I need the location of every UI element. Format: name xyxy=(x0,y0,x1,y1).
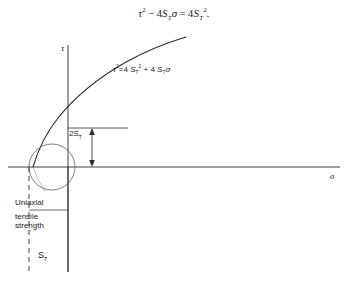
failure-envelope-lower-branch xyxy=(33,167,45,191)
tensile-strength-label: tensile strength xyxy=(15,212,44,230)
curve-eq-plus: + xyxy=(144,65,149,74)
strength-subscript: T xyxy=(44,256,47,262)
curve-eq-coefficient-b: 4 xyxy=(150,65,154,74)
tau-axis-label: τ xyxy=(61,43,64,53)
curve-eq-strength-exponent: 2 xyxy=(139,64,142,69)
failure-envelope-curve xyxy=(33,37,186,167)
dimension-value: 2S xyxy=(69,129,79,138)
dimension-label: 2ST xyxy=(69,129,82,140)
dimension-arrow-head-bottom xyxy=(89,160,95,167)
strength-line: strength xyxy=(15,221,44,230)
curve-eq-strength-subscript: T xyxy=(135,70,138,75)
uniaxial-label: Uniaxial xyxy=(15,198,43,207)
figure-container: τ2−4STσ=4ST2. τ σ τ2=4 ST2 + 4 STσ 2ST xyxy=(0,0,348,290)
dimension-subscript: T xyxy=(79,135,82,140)
tensile-line: tensile xyxy=(15,212,44,221)
curve-eq-coefficient-a: 4 xyxy=(123,65,127,74)
strength-symbol-label: ST xyxy=(38,250,47,262)
curve-equation-label: τ2=4 ST2 + 4 STσ xyxy=(113,64,170,76)
plot-canvas xyxy=(0,0,348,290)
sigma-axis-label: σ xyxy=(330,171,334,181)
curve-eq-sigma: σ xyxy=(165,65,170,74)
dimension-arrow-head-top xyxy=(89,128,95,135)
